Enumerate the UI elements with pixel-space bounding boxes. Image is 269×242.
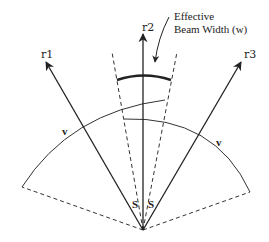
right-sector-boundary — [143, 192, 250, 230]
left-sector-boundary — [22, 187, 143, 230]
annotation-pointer — [155, 17, 169, 62]
annotation-line-1: Effective — [174, 10, 214, 22]
label-s-right: S — [148, 198, 154, 210]
ray-r3 — [143, 62, 241, 230]
label-r3: r3 — [244, 48, 256, 61]
label-r2: r2 — [142, 21, 154, 34]
label-v-left: v — [62, 125, 68, 137]
label-v-right: v — [216, 136, 222, 148]
effective-beam-width-arc — [117, 76, 171, 81]
annotation-line-2: Beam Width (w) — [174, 23, 248, 36]
label-s-left: S — [132, 198, 138, 210]
beam-width-diagram: r1 r2 r3 Effective Beam Width (w) v v S … — [0, 0, 269, 242]
label-r1: r1 — [41, 48, 53, 61]
